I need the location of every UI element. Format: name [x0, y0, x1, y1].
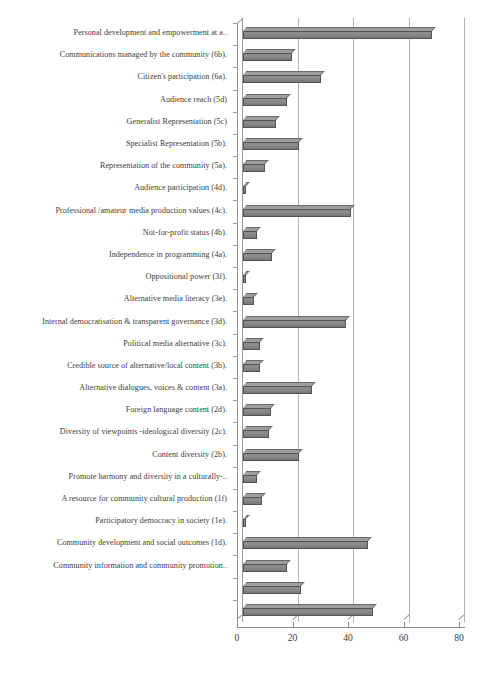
bar [238, 182, 246, 193]
bar [238, 71, 321, 82]
category-tick [233, 267, 238, 268]
category-tick [233, 600, 238, 601]
bar [238, 249, 272, 260]
bar-face [243, 31, 432, 39]
bar-face [243, 430, 269, 438]
category-label: Personal development and empowerment at … [74, 28, 227, 37]
category-label: Audience reach (5d) [160, 95, 227, 104]
category-tick [233, 67, 238, 68]
category-tick [233, 334, 238, 335]
category-tick [233, 90, 238, 91]
x-axis-tick-label: 80 [454, 632, 464, 643]
bar [238, 515, 246, 526]
category-tick [233, 223, 238, 224]
category-label: Alternative dialogues, voices & content … [79, 383, 227, 392]
category-label: Community development and social outcome… [57, 538, 227, 547]
axis-tick-mark [459, 622, 460, 628]
category-tick [233, 467, 238, 468]
bar [238, 604, 373, 615]
bar [238, 560, 287, 571]
bar [238, 160, 265, 171]
bar [238, 537, 368, 548]
bar [238, 582, 301, 593]
category-label: Credible source of alternative/local con… [67, 361, 227, 370]
category-tick [233, 311, 238, 312]
bar-face [243, 98, 287, 106]
category-tick [233, 378, 238, 379]
category-tick [233, 533, 238, 534]
axis-tick-mark [237, 622, 238, 628]
category-tick [233, 112, 238, 113]
bar-face [243, 142, 299, 150]
category-label: Not-for-profit status (4b). [143, 228, 227, 237]
bar-face [243, 209, 351, 217]
bar [238, 471, 257, 482]
category-axis-labels: Personal development and empowerment at … [0, 0, 232, 673]
bar-face [243, 541, 368, 549]
bar-face [243, 586, 301, 594]
category-tick [233, 45, 238, 46]
bar-face [243, 342, 260, 350]
axis-tick-mark [348, 622, 349, 628]
category-label: Alternative media literacy (3e). [124, 294, 227, 303]
category-label: Professional /amateur media production v… [55, 206, 227, 215]
bar-face [243, 53, 292, 61]
bar-face [243, 453, 299, 461]
category-tick [233, 178, 238, 179]
category-tick [233, 422, 238, 423]
category-label: Diversity of viewpoints -ideological div… [60, 427, 227, 436]
bar-face [243, 320, 346, 328]
bar [238, 404, 271, 415]
bar [238, 138, 299, 149]
category-tick [233, 489, 238, 490]
axis-tick-mark [404, 622, 405, 628]
bar-face [243, 253, 272, 261]
bar-face [243, 297, 254, 305]
bar [238, 227, 257, 238]
bar-face [243, 164, 265, 172]
category-label: A resource for community cultural produc… [61, 494, 227, 503]
plot-area: 020406080 [232, 18, 478, 628]
category-label: Representation of the community (5a). [100, 161, 227, 170]
bar-chart: Personal development and empowerment at … [0, 0, 478, 673]
bar-face [243, 120, 276, 128]
gridline [353, 18, 354, 622]
category-label: Political media alternative (3c). [123, 339, 227, 348]
category-tick [233, 23, 238, 24]
bar-face [243, 386, 312, 394]
category-tick [233, 578, 238, 579]
category-label: Generalist Representation (5c) [127, 117, 227, 126]
bar [238, 493, 262, 504]
category-tick [233, 289, 238, 290]
category-tick [233, 511, 238, 512]
bar [238, 316, 346, 327]
bar [238, 293, 254, 304]
category-tick [233, 134, 238, 135]
category-label: Oppositional power (3f). [146, 272, 227, 281]
gridline [409, 18, 410, 622]
bar [238, 116, 276, 127]
bar [238, 382, 312, 393]
category-tick [233, 245, 238, 246]
category-label: Promote harmony and diversity in a cultu… [69, 472, 227, 481]
category-label: Communications managed by the community … [60, 50, 227, 59]
category-tick [233, 156, 238, 157]
category-label: Community information and community prom… [53, 561, 227, 570]
category-label: Participatory democracy in society (1e). [95, 516, 227, 525]
category-axis-line [237, 627, 465, 628]
category-tick [233, 555, 238, 556]
bar [238, 271, 246, 282]
category-label: Audience participation (4d). [134, 183, 227, 192]
category-label: Content diversity (2b). [152, 450, 227, 459]
bar [238, 426, 269, 437]
category-label: Internal democratisation & transparent g… [42, 317, 227, 326]
bar [238, 449, 299, 460]
x-axis-tick-label: 60 [399, 632, 409, 643]
bar-face [243, 275, 246, 283]
axis-tick-mark [293, 622, 294, 628]
category-label: Specialist Representation (5b). [126, 139, 227, 148]
bar [238, 94, 287, 105]
bar-face [243, 75, 321, 83]
bar-face [243, 408, 271, 416]
bar-face [243, 186, 246, 194]
